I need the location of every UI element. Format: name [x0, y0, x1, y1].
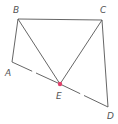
segment-ad [12, 62, 32, 71]
segment-ce [60, 20, 102, 84]
label-b: B [13, 5, 19, 15]
segment-ad [60, 84, 80, 94]
geometry-diagram: A B C D E [0, 0, 118, 124]
label-c: C [100, 5, 107, 15]
segment-ab [12, 19, 18, 62]
label-d: D [107, 111, 114, 121]
point-e-marker [58, 82, 62, 86]
label-e: E [56, 91, 62, 101]
label-a: A [4, 68, 11, 78]
segment-ad [84, 96, 108, 108]
segment-cd [102, 20, 108, 107]
segment-bc [18, 19, 102, 20]
